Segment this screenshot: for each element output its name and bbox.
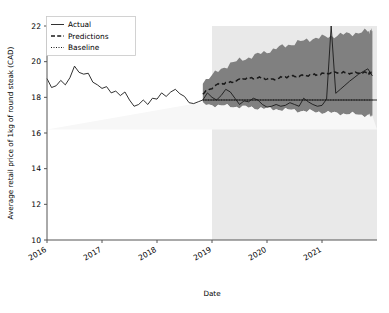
legend-label-predictions: Predictions — [68, 32, 109, 41]
chart-figure: 10121416182022 201620172018201920202021 … — [0, 0, 389, 313]
y-tick-label: 10 — [31, 236, 41, 245]
y-tick-label: 22 — [31, 22, 41, 31]
y-axis-title: Average retail price of 1kg of round ste… — [6, 46, 15, 219]
y-tick-label: 16 — [31, 129, 41, 138]
x-tick-label: 2017 — [82, 245, 103, 263]
x-tick-label: 2019 — [192, 245, 213, 263]
chart-legend: Actual Predictions Baseline — [47, 17, 136, 56]
x-axis-title: Date — [203, 289, 221, 298]
x-tick-label: 2018 — [137, 245, 158, 263]
x-tick-label: 2016 — [27, 245, 48, 263]
y-tick-label: 14 — [31, 164, 41, 173]
y-tick-label: 12 — [31, 200, 41, 209]
y-axis-ticks: 10121416182022 — [31, 22, 47, 245]
x-axis-ticks: 201620172018201920202021 — [27, 240, 323, 262]
y-tick-label: 18 — [31, 93, 41, 102]
x-tick-label: 2020 — [247, 245, 268, 263]
legend-label-baseline: Baseline — [68, 43, 100, 52]
line-chart: 10121416182022 201620172018201920202021 … — [0, 0, 389, 313]
legend-label-actual: Actual — [68, 20, 91, 29]
y-tick-label: 20 — [31, 57, 41, 66]
x-tick-label: 2021 — [302, 245, 323, 263]
